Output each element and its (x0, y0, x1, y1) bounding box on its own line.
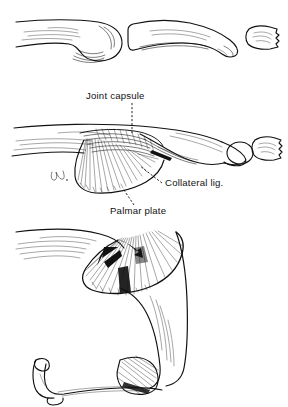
label-palmar-plate: Palmar plate (110, 205, 166, 216)
anatomy-figure: Joint capsule (0, 0, 288, 407)
figure-background (0, 0, 288, 407)
label-joint-capsule: Joint capsule (86, 90, 145, 101)
label-collateral-lig: Collateral lig. (165, 177, 223, 188)
figure-canvas: Joint capsule (0, 0, 288, 407)
